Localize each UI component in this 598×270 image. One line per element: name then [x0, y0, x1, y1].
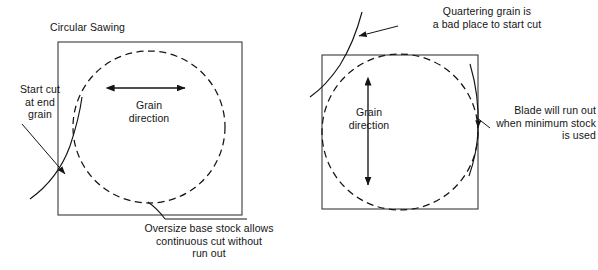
right-quartering-leader	[359, 26, 398, 36]
left-grain-direction-label: Grain direction	[110, 99, 188, 124]
right-blade-runout-curve-lower	[469, 132, 478, 176]
callout-start-cut-at-end-grain: Start cut at end grain	[4, 83, 76, 121]
left-cut-circle	[73, 51, 225, 203]
left-panel-title: Circular Sawing	[50, 21, 125, 34]
callout-oversize-base-stock: Oversize base stock allows continuous cu…	[128, 222, 290, 260]
right-base-stock-square	[322, 55, 478, 209]
right-panel-group	[310, 12, 490, 210]
circular-sawing-figure: Circular Sawing Start cut at end grain G…	[0, 0, 598, 270]
left-blade-exit-curve	[148, 202, 165, 219]
left-panel-group	[22, 42, 247, 219]
callout-blade-will-run-out: Blade will run out when minimum stock is…	[488, 104, 596, 142]
callout-quartering-grain: Quartering grain is a bad place to start…	[398, 5, 576, 30]
left-base-stock-square	[58, 42, 242, 215]
right-cut-circle	[322, 54, 478, 210]
right-grain-direction-label: Grain direction	[338, 106, 400, 131]
